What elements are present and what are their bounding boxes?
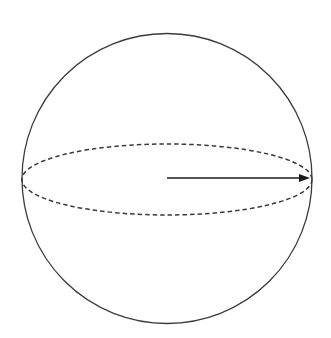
background-rect <box>0 0 331 338</box>
figure-canvas <box>0 0 331 338</box>
sphere-diagram <box>0 0 331 338</box>
